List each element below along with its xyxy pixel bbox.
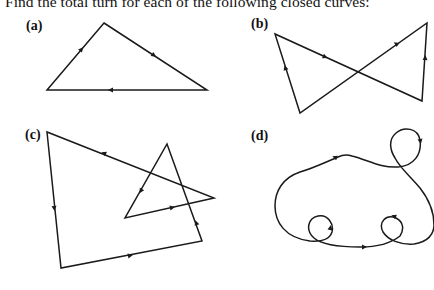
arrow-icon [322,54,329,61]
curve-b [275,23,428,113]
arrow-icon [108,88,113,93]
arrow-icon [423,55,428,60]
curve-d [275,129,434,250]
arrow-icon [52,206,57,211]
arrow-icon [362,245,367,250]
curves-figure [0,0,434,290]
arrow-icon [128,253,134,259]
curve-c [47,132,214,268]
curve-a [47,23,207,93]
